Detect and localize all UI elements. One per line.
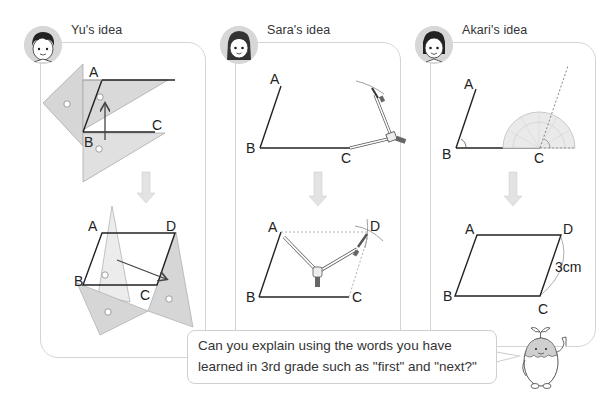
label-c: C <box>152 117 162 133</box>
label-d: D <box>370 218 380 234</box>
compass-icon <box>284 234 367 287</box>
akari-bottom-figure: A B C D 3cm <box>443 221 581 317</box>
label-a: A <box>464 76 474 92</box>
label-b: B <box>443 288 452 304</box>
label-d: D <box>166 218 176 234</box>
label-a: A <box>88 218 98 234</box>
speech-line-2: learned in 3rd grade such as "first" and… <box>198 356 486 377</box>
label-c: C <box>352 289 362 305</box>
down-arrow-icon <box>137 172 522 206</box>
label-a: A <box>465 221 475 237</box>
label-c: C <box>140 287 150 303</box>
akari-top-figure: A B C <box>442 66 575 166</box>
label-a: A <box>270 71 280 87</box>
sara-top-figure: A B C <box>246 71 406 166</box>
speech-line-1: Can you explain using the words you have <box>198 335 486 356</box>
label-b: B <box>246 289 255 305</box>
label-a: A <box>268 219 278 235</box>
sara-bottom-figure: A B C D <box>246 218 383 305</box>
yu-top-figure: A B C <box>43 64 175 182</box>
label-b: B <box>74 273 83 289</box>
label-b: B <box>84 134 93 150</box>
yu-bottom-figure: A B C D <box>74 206 193 335</box>
compass-icon <box>350 88 406 148</box>
mascot-icon <box>523 328 566 389</box>
label-b: B <box>246 140 255 156</box>
label-d: D <box>563 221 573 237</box>
label-b: B <box>442 146 451 162</box>
label-c: C <box>534 150 544 166</box>
label-a: A <box>89 64 99 80</box>
measurement-label: 3cm <box>555 259 581 275</box>
label-c: C <box>538 301 548 317</box>
protractor-icon <box>503 112 575 148</box>
speech-bubble: Can you explain using the words you have… <box>187 330 497 384</box>
label-c: C <box>341 150 351 166</box>
